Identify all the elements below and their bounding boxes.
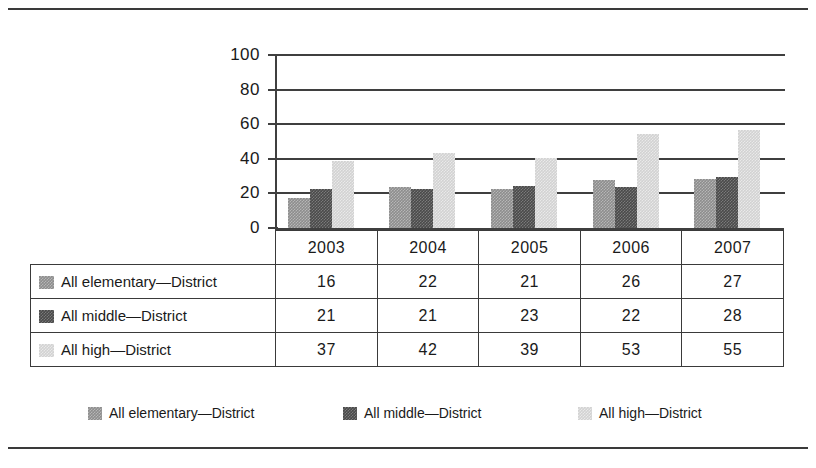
legend-item: All high—District <box>578 405 702 421</box>
series-color-swatch-icon <box>39 344 54 357</box>
legend-item-label: All elementary—District <box>109 405 254 421</box>
table-cell-value: 21 <box>377 299 479 333</box>
legend-item-label: All high—District <box>599 405 702 421</box>
bar-group <box>694 0 760 228</box>
bar <box>411 189 433 228</box>
chart-legend: All elementary—DistrictAll middle—Distri… <box>30 405 784 431</box>
series-color-swatch-icon <box>39 310 54 323</box>
table-cell-value: 22 <box>377 265 479 299</box>
legend-item-label: All middle—District <box>364 405 481 421</box>
table-year-header: 2004 <box>377 231 479 265</box>
table-row-label-text: All middle—District <box>61 307 187 324</box>
table-row-label-text: All elementary—District <box>61 273 217 290</box>
table-cell-value: 42 <box>377 333 479 367</box>
bar-chart: 020406080100 <box>0 0 816 240</box>
table-year-header: 2007 <box>682 231 784 265</box>
bar <box>332 161 354 228</box>
bar <box>310 189 332 228</box>
figure-container: 020406080100 20032004200520062007All ele… <box>0 0 816 468</box>
table-header-spacer <box>31 231 276 265</box>
table-cell-value: 55 <box>682 333 784 367</box>
table-cell-value: 21 <box>479 265 581 299</box>
bar <box>593 180 615 228</box>
table-cell-value: 16 <box>276 265 378 299</box>
table-cell-value: 53 <box>580 333 682 367</box>
table-row-label: All middle—District <box>31 299 276 333</box>
bottom-divider-rule <box>8 447 808 449</box>
table-cell-value: 39 <box>479 333 581 367</box>
legend-color-swatch-icon <box>343 407 357 420</box>
series-color-swatch-icon <box>39 276 54 289</box>
bars-layer <box>0 0 816 228</box>
bar <box>738 130 760 228</box>
table-row-label-text: All high—District <box>61 341 171 358</box>
table-row-label: All elementary—District <box>31 265 276 299</box>
table-cell-value: 37 <box>276 333 378 367</box>
bar <box>513 186 535 228</box>
table-cell-value: 22 <box>580 299 682 333</box>
table-cell-value: 27 <box>682 265 784 299</box>
legend-color-swatch-icon <box>578 407 592 420</box>
bar <box>433 153 455 228</box>
table-cell-value: 23 <box>479 299 581 333</box>
bar <box>637 134 659 228</box>
bar-group <box>288 0 354 228</box>
bar <box>389 187 411 228</box>
table-row-label: All high—District <box>31 333 276 367</box>
bar <box>694 179 716 228</box>
bar-group <box>593 0 659 228</box>
table-cell-value: 28 <box>682 299 784 333</box>
table-cell-value: 21 <box>276 299 378 333</box>
legend-item: All elementary—District <box>88 405 254 421</box>
table-cell-value: 26 <box>580 265 682 299</box>
legend-item: All middle—District <box>343 405 481 421</box>
table-header-row: 20032004200520062007 <box>31 231 784 265</box>
data-table: 20032004200520062007All elementary—Distr… <box>30 230 784 367</box>
bar <box>716 177 738 228</box>
table-year-header: 2006 <box>580 231 682 265</box>
bar <box>288 198 310 228</box>
table-year-header: 2005 <box>479 231 581 265</box>
bar <box>615 187 637 228</box>
bar-group <box>491 0 557 228</box>
table-year-header: 2003 <box>276 231 378 265</box>
table-row: All high—District3742395355 <box>31 333 784 367</box>
table-row: All elementary—District1622212627 <box>31 265 784 299</box>
table-row: All middle—District2121232228 <box>31 299 784 333</box>
legend-color-swatch-icon <box>88 407 102 420</box>
bar <box>535 158 557 228</box>
bar-group <box>389 0 455 228</box>
bar <box>491 189 513 228</box>
